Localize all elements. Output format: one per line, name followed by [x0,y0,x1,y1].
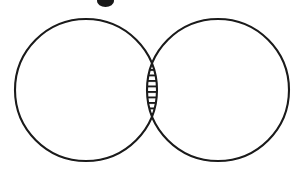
venn-diagram-figure [0,0,294,181]
venn-diagram-canvas [0,0,294,181]
